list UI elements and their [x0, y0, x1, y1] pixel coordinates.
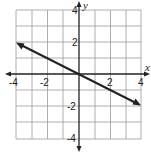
y-tick-label: 4	[72, 5, 78, 16]
y-axis-down-arrow-icon	[77, 146, 82, 152]
line-arrow-left-icon	[16, 43, 25, 50]
x-tick-label: -4	[9, 77, 18, 88]
coordinate-plane: -4 -2 2 4 4 2 -2 -4 x y	[0, 0, 151, 153]
x-tick-label: 4	[138, 77, 144, 88]
y-tick-label: 2	[72, 37, 78, 48]
x-tick-label: -2	[40, 77, 49, 88]
y-tick-label: -4	[67, 133, 76, 144]
y-tick-label: -2	[67, 101, 76, 112]
axis-arrows	[5, 1, 150, 152]
x-axis-left-arrow-icon	[5, 72, 11, 77]
y-axis-label: y	[82, 0, 88, 11]
x-axis-label: x	[144, 61, 150, 73]
x-tick-label: 2	[107, 77, 113, 88]
line-arrow-right-icon	[133, 99, 142, 106]
